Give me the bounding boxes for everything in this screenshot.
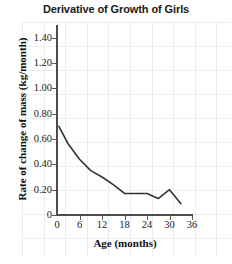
chart-figure: Derivative of Growth of Girls 00.200.400… [0,0,232,264]
y-axis-title: Rate of change of mass (kg/month) [16,19,28,219]
data-line-rate-of-change [59,126,181,203]
data-series-layer [0,0,232,264]
x-axis-title: Age (months) [40,237,210,249]
